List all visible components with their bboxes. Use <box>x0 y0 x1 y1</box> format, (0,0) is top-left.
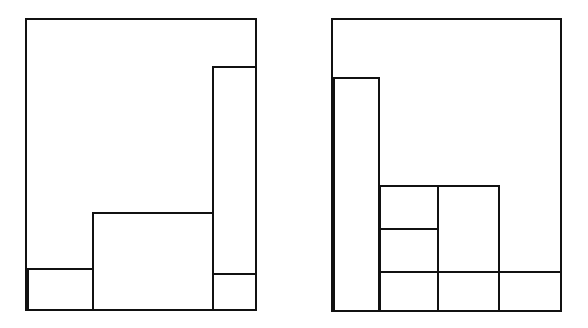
stack-cell-top <box>380 186 438 229</box>
tall-left-block <box>334 78 379 311</box>
panel-left <box>26 19 256 310</box>
bottom-left-block <box>28 269 93 310</box>
bottom-cell-1 <box>380 272 438 311</box>
bottom-cell-3 <box>499 272 561 311</box>
stack-cell-middle <box>380 229 438 272</box>
container-right <box>332 19 561 311</box>
tall-middle-block <box>438 186 499 272</box>
tall-right-block <box>213 67 256 274</box>
panel-right <box>332 19 561 311</box>
bottom-cell-2 <box>438 272 499 311</box>
container-left <box>26 19 256 310</box>
bottom-right-block <box>213 274 256 310</box>
middle-block <box>93 213 213 310</box>
packing-diagram <box>0 0 588 328</box>
